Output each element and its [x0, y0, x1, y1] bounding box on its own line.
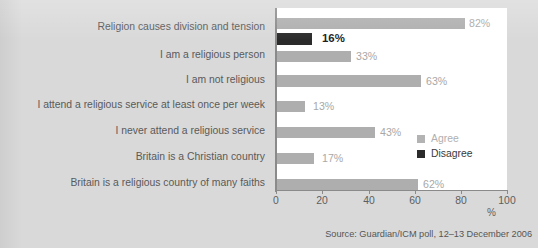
bar-chart: Religion causes division and tension I a…: [0, 0, 538, 248]
bar-agree-6: [275, 179, 418, 190]
legend-item-agree: Agree: [417, 131, 473, 146]
bar-agree-4: [275, 127, 375, 138]
legend-swatch-disagree-icon: [417, 150, 425, 158]
bar-value-disagree-0: 16%: [322, 32, 345, 44]
value-axis-line: [275, 8, 277, 192]
category-label-2: I am not religious: [0, 74, 265, 86]
value-axis-baseline: [275, 190, 507, 191]
tick-label-40: 40: [363, 195, 375, 206]
bar-agree-3: [275, 101, 305, 112]
legend-swatch-agree-icon: [417, 135, 425, 143]
legend-item-disagree: Disagree: [417, 146, 473, 161]
bar-agree-5: [275, 153, 314, 164]
category-label-0: Religion causes division and tension: [0, 21, 265, 33]
tick-label-80: 80: [455, 195, 467, 206]
tick-label-100: 100: [498, 195, 515, 206]
tick-mark-80: [461, 190, 462, 194]
bar-agree-0: [275, 18, 465, 29]
bar-disagree-0: [275, 33, 312, 45]
bar-value-agree-5: 17%: [322, 152, 343, 164]
category-label-3: I attend a religious service at least on…: [0, 99, 265, 111]
tick-label-0: 0: [273, 195, 279, 206]
bar-value-agree-2: 63%: [426, 75, 447, 87]
category-label-5: Britain is a Christian country: [0, 151, 265, 163]
tick-mark-20: [322, 190, 323, 194]
tick-mark-60: [415, 190, 416, 194]
tick-mark-40: [369, 190, 370, 194]
category-label-1: I am a religious person: [0, 49, 265, 61]
bar-value-agree-1: 33%: [356, 50, 377, 62]
axis-unit-label: %: [487, 207, 496, 218]
bar-value-agree-4: 43%: [380, 126, 401, 138]
plot-area: 82% 16% 33% 63% 13% 43% 17% 62%: [275, 8, 507, 190]
bar-agree-1: [275, 51, 351, 62]
tick-label-60: 60: [409, 195, 421, 206]
category-label-4: I never attend a religious service: [0, 125, 265, 137]
bar-value-agree-3: 13%: [313, 100, 334, 112]
legend-label-agree: Agree: [431, 133, 459, 144]
tick-label-20: 20: [316, 195, 328, 206]
bar-value-agree-6: 62%: [423, 178, 444, 190]
legend-label-disagree: Disagree: [431, 148, 473, 159]
bar-agree-2: [275, 75, 421, 87]
tick-mark-100: [507, 190, 508, 194]
category-label-6: Britain is a religious country of many f…: [0, 177, 265, 189]
chart-legend: Agree Disagree: [417, 131, 473, 161]
bar-value-agree-0: 82%: [469, 17, 490, 29]
source-note: Source: Guardian/ICM poll, 12–13 Decembe…: [325, 229, 532, 239]
tick-mark-0: [276, 190, 277, 194]
category-axis-labels: Religion causes division and tension I a…: [0, 8, 271, 190]
